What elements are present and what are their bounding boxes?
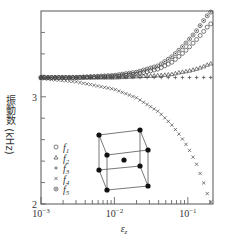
marker-cross <box>117 89 120 92</box>
x-tick-label: 10−2 <box>106 207 124 219</box>
marker-cross <box>89 83 92 86</box>
cube-edge <box>140 166 148 186</box>
marker-cross <box>68 80 71 83</box>
marker-circle <box>188 45 192 49</box>
marker-plus <box>181 76 185 80</box>
marker-circle <box>191 41 195 45</box>
marker-triangle <box>198 66 202 70</box>
marker-dot <box>114 74 116 76</box>
marker-triangle <box>191 68 195 72</box>
marker-dot <box>40 77 42 79</box>
marker-cross <box>188 149 191 152</box>
marker-cross <box>110 87 113 90</box>
cube-edge <box>99 166 140 170</box>
marker-dot <box>107 75 109 77</box>
marker-dot <box>196 30 198 32</box>
marker-dot <box>171 56 173 58</box>
marker-cross <box>82 82 85 85</box>
marker-dot <box>55 188 57 190</box>
marker-circle <box>54 145 58 149</box>
marker-plus <box>195 76 199 80</box>
marker-cross <box>163 116 166 119</box>
marker-cross <box>138 98 141 101</box>
marker-dot <box>72 77 74 79</box>
cube-edge <box>99 135 107 155</box>
cube-edge <box>107 150 148 155</box>
series-f5 <box>39 10 213 79</box>
marker-triangle <box>54 156 58 160</box>
marker-cross <box>184 143 187 146</box>
marker-cross <box>121 91 124 94</box>
x-tick-label: 10−1 <box>179 207 197 219</box>
marker-dot <box>189 38 191 40</box>
marker-cross <box>96 84 99 87</box>
marker-cross <box>177 133 180 136</box>
marker-cross <box>156 110 159 113</box>
marker-dot <box>178 49 180 51</box>
marker-cross <box>131 95 134 98</box>
marker-dot <box>111 75 113 77</box>
marker-dot <box>100 75 102 77</box>
marker-triangle <box>209 62 213 66</box>
marker-dot <box>203 20 205 22</box>
marker-cross <box>145 103 148 106</box>
marker-dot <box>79 76 81 78</box>
marker-cross <box>153 107 156 110</box>
marker-dot <box>93 76 95 78</box>
marker-dot <box>54 77 56 79</box>
marker-cross <box>206 192 209 195</box>
marker-circle <box>180 51 184 55</box>
marker-cross <box>195 163 198 166</box>
corner-atom <box>137 127 142 132</box>
marker-circle <box>195 38 199 42</box>
chart-area: 2310−310−210−1 f1f2f3f4f5 εz <box>0 0 225 239</box>
marker-dot <box>90 76 92 78</box>
marker-circle <box>173 57 177 61</box>
marker-dot <box>139 70 141 72</box>
marker-circle <box>177 54 181 58</box>
marker-dot <box>61 77 63 79</box>
marker-dot <box>136 71 138 73</box>
marker-dot <box>44 77 46 79</box>
marker-dot <box>168 58 170 60</box>
center-atom <box>121 157 126 162</box>
marker-circle <box>205 25 209 29</box>
marker-dot <box>125 73 127 75</box>
marker-plus <box>54 166 58 170</box>
marker-cross <box>78 81 81 84</box>
marker-cross <box>92 84 95 87</box>
marker-dot <box>129 72 131 74</box>
marker-dot <box>47 77 49 79</box>
bcc-cube-inset <box>96 127 150 192</box>
marker-dot <box>58 77 60 79</box>
marker-cross <box>142 101 145 104</box>
corner-atom <box>104 152 109 157</box>
marker-dot <box>132 72 134 74</box>
marker-dot <box>86 76 88 78</box>
marker-cross <box>170 123 173 126</box>
marker-dot <box>76 77 78 79</box>
marker-dot <box>118 74 120 76</box>
marker-dot <box>185 42 187 44</box>
x-tick-label: 10−3 <box>32 207 50 219</box>
legend: f1f2f3f4f5 <box>54 142 70 197</box>
cube-edge <box>140 130 148 150</box>
marker-dot <box>104 75 106 77</box>
marker-dot <box>83 76 85 78</box>
marker-cross <box>202 181 205 184</box>
marker-cross <box>124 92 127 95</box>
marker-cross <box>174 128 177 131</box>
marker-dot <box>206 15 208 17</box>
marker-cross <box>75 80 78 83</box>
marker-dot <box>157 65 159 67</box>
marker-triangle <box>195 67 199 71</box>
cube-edge <box>99 170 107 190</box>
marker-cross <box>54 177 57 180</box>
marker-circle <box>202 29 206 33</box>
marker-dot <box>199 25 201 27</box>
marker-cross <box>71 80 74 83</box>
corner-atom <box>145 147 150 152</box>
corner-atom <box>96 167 101 172</box>
marker-circle <box>184 48 188 52</box>
corner-atom <box>104 187 109 192</box>
